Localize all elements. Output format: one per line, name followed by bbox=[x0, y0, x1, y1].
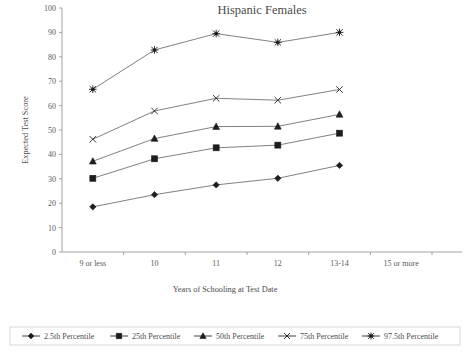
y-tick-label: 70 bbox=[48, 77, 56, 86]
x-tick-label: 13-14 bbox=[330, 259, 349, 268]
line-chart: Hispanic Females0102030405060708090100Ex… bbox=[0, 0, 468, 355]
marker-square bbox=[152, 156, 158, 162]
marker-diamond bbox=[336, 162, 342, 168]
series-4 bbox=[90, 86, 343, 142]
marker-star-core bbox=[338, 31, 341, 34]
marker-square bbox=[90, 175, 96, 181]
marker-diamond bbox=[275, 175, 281, 181]
marker-x bbox=[336, 86, 342, 92]
marker-star-core bbox=[91, 88, 94, 91]
marker-star-core bbox=[370, 335, 373, 338]
series-5 bbox=[89, 29, 343, 93]
chart-title: Hispanic Females bbox=[217, 3, 306, 17]
series-1 bbox=[90, 162, 343, 210]
series-line bbox=[93, 32, 340, 89]
y-tick-label: 60 bbox=[48, 102, 56, 111]
x-tick-label: 15 or more bbox=[384, 259, 420, 268]
x-tick-label: 9 or less bbox=[79, 259, 106, 268]
series-3 bbox=[89, 111, 342, 164]
x-tick-label: 12 bbox=[274, 259, 282, 268]
marker-star-core bbox=[153, 48, 156, 51]
marker-star-core bbox=[215, 32, 218, 35]
marker-square bbox=[337, 130, 343, 136]
y-tick-label: 30 bbox=[48, 175, 56, 184]
legend-item-label: 97.5th Percentile bbox=[384, 332, 439, 341]
marker-diamond bbox=[213, 182, 219, 188]
series-2 bbox=[90, 130, 343, 181]
legend: 2.5th Percentile25th Percentile50th Perc… bbox=[10, 327, 460, 345]
series-line bbox=[93, 133, 340, 178]
y-tick-label: 80 bbox=[48, 53, 56, 62]
marker-square bbox=[116, 333, 122, 339]
x-tick-label: 11 bbox=[212, 259, 220, 268]
y-tick-label: 20 bbox=[48, 199, 56, 208]
x-axis-title: Years of Schooling at Test Date bbox=[173, 285, 278, 294]
marker-diamond bbox=[90, 204, 96, 210]
y-tick-label: 100 bbox=[44, 4, 56, 13]
y-tick-label: 40 bbox=[48, 150, 56, 159]
legend-item-label: 75th Percentile bbox=[300, 332, 349, 341]
legend-item-label: 50th Percentile bbox=[216, 332, 265, 341]
marker-x bbox=[90, 136, 96, 142]
y-tick-label: 90 bbox=[48, 28, 56, 37]
marker-triangle bbox=[89, 158, 96, 164]
legend-item-label: 25th Percentile bbox=[132, 332, 181, 341]
x-tick-label: 10 bbox=[151, 259, 159, 268]
y-tick-label: 50 bbox=[48, 126, 56, 135]
marker-triangle bbox=[213, 123, 220, 129]
marker-diamond bbox=[151, 191, 157, 197]
series-line bbox=[93, 114, 340, 161]
y-tick-label: 10 bbox=[48, 224, 56, 233]
marker-x bbox=[151, 108, 157, 114]
marker-square bbox=[213, 145, 219, 151]
series-line bbox=[93, 90, 340, 140]
legend-item-label: 2.5th Percentile bbox=[44, 332, 95, 341]
marker-star-core bbox=[276, 41, 279, 44]
y-tick-label: 0 bbox=[52, 248, 56, 257]
marker-square bbox=[275, 142, 281, 148]
y-axis-title: Expected Test Score bbox=[21, 96, 30, 164]
chart-container: Hispanic Females0102030405060708090100Ex… bbox=[0, 0, 468, 355]
marker-triangle bbox=[336, 111, 343, 117]
